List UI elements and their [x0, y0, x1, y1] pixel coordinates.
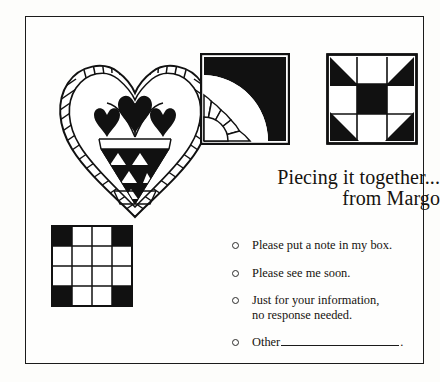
note-card: Piecing it together... from Margo Please… [0, 0, 440, 382]
circle-outline-icon[interactable] [232, 242, 239, 249]
shoofly-quilt-block [326, 53, 418, 145]
list-item[interactable]: Just for your information, no response n… [232, 293, 440, 322]
heart-basket-quilt-motif [54, 41, 216, 221]
new-york-beauty-arc-quilt-block [200, 53, 290, 145]
list-item-label: Other . [252, 335, 403, 350]
list-item[interactable]: Please see me soon. [232, 266, 440, 281]
checklist: Please put a note in my box. Please see … [232, 238, 440, 363]
list-item-label: Please see me soon. [252, 266, 350, 281]
other-label: Other [252, 335, 280, 350]
page-title: Piecing it together... from Margo [226, 167, 440, 209]
four-patch-checkerboard-quilt-block [51, 225, 133, 307]
circle-outline-icon[interactable] [232, 297, 239, 304]
center-square [357, 84, 387, 114]
list-item-label-line-1: Just for your information, [252, 293, 379, 307]
circle-outline-icon[interactable] [232, 270, 239, 277]
list-item-label: Please put a note in my box. [252, 238, 392, 253]
list-item-other[interactable]: Other . [232, 335, 440, 350]
card-frame: Piecing it together... from Margo Please… [25, 16, 424, 364]
other-trailing-period: . [400, 335, 403, 350]
list-item[interactable]: Please put a note in my box. [232, 238, 440, 253]
other-fill-in-line[interactable] [281, 345, 399, 346]
title-line-1: Piecing it together... [226, 167, 440, 188]
title-line-2: from Margo [226, 188, 440, 209]
circle-outline-icon[interactable] [232, 339, 239, 346]
list-item-label: Just for your information, no response n… [252, 293, 379, 322]
list-item-label-line-2: no response needed. [252, 308, 379, 323]
